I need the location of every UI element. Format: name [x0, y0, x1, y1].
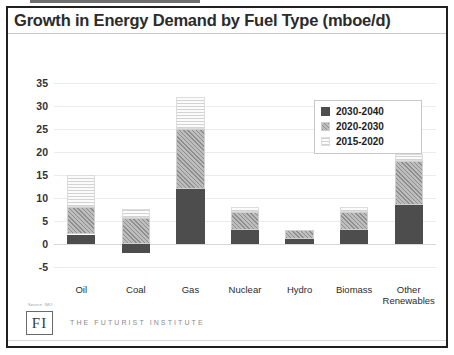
y-axis-tick-label: 10 [36, 192, 48, 204]
bar-segment [231, 207, 259, 212]
bar-segment [122, 209, 150, 218]
x-axis-label: Nuclear [218, 284, 273, 295]
bar-segment [340, 230, 368, 244]
bar-segment [176, 129, 204, 189]
bar-segment [395, 161, 423, 204]
legend-swatch-dark-icon [321, 107, 330, 116]
footer-divider [8, 340, 446, 341]
bar-coal [122, 72, 150, 278]
legend-swatch-light-icon [321, 137, 330, 146]
bar-segment [176, 97, 204, 129]
y-axis-tick-label: 15 [36, 169, 48, 181]
legend-item: 2020-2030 [321, 119, 417, 134]
bar-segment [340, 212, 368, 230]
legend-item: 2015-2020 [321, 134, 417, 149]
bar-oil [67, 72, 95, 278]
x-axis-label: Gas [163, 284, 218, 295]
source-note: Source: IMO [28, 302, 53, 307]
legend-label: 2015-2020 [336, 136, 384, 147]
x-axis-label: Hydro [272, 284, 327, 295]
bar-segment [176, 189, 204, 244]
chart-title-bar: Growth in Energy Demand by Fuel Type (mb… [8, 8, 446, 34]
y-axis-tick-label: 35 [36, 77, 48, 89]
bar-segment [122, 244, 150, 253]
chart-title: Growth in Energy Demand by Fuel Type (mb… [8, 11, 391, 30]
page-top-rule [30, 0, 200, 3]
bar-hydro [285, 72, 313, 278]
y-axis-tick-label: 0 [42, 238, 48, 250]
bar-segment [285, 239, 313, 244]
bar-gas [176, 72, 204, 278]
legend-item: 2030-2040 [321, 104, 417, 119]
bar-segment [67, 175, 95, 207]
y-axis-tick-label: -5 [39, 261, 48, 273]
y-axis-tick-label: 30 [36, 100, 48, 112]
bar-segment [340, 207, 368, 212]
futurist-institute-logo: FI [26, 311, 53, 335]
bar-segment [67, 235, 95, 244]
slide: Growth in Energy Demand by Fuel Type (mb… [0, 0, 454, 355]
bar-segment [285, 230, 313, 239]
x-axis-label: Oil [54, 284, 109, 295]
x-axis-label: Biomass [327, 284, 382, 295]
organization-name: THE FUTURIST INSTITUTE [70, 319, 205, 326]
slide-footer: Source: IMO FI THE FUTURIST INSTITUTE [8, 300, 446, 346]
legend-label: 2020-2030 [336, 121, 384, 132]
bar-segment [231, 212, 259, 230]
legend-label: 2030-2040 [336, 106, 384, 117]
bar-segment [122, 218, 150, 243]
bar-segment [231, 230, 259, 244]
bar-nuclear [231, 72, 259, 278]
y-axis-tick-label: 20 [36, 146, 48, 158]
y-axis-tick-label: 5 [42, 215, 48, 227]
bar-segment [67, 207, 95, 234]
y-axis-tick-label: 25 [36, 123, 48, 135]
chart-plot-area: 35302520151050-5 OilCoalGasNuclearHydroB… [8, 36, 446, 298]
bar-segment [395, 205, 423, 244]
chart-legend: 2030-2040 2020-2030 2015-2020 [314, 100, 422, 154]
bar-segment [395, 154, 423, 161]
legend-swatch-mid-icon [321, 122, 330, 131]
y-axis-ticks: 35302520151050-5 [18, 72, 48, 278]
x-axis-label: Coal [109, 284, 164, 295]
